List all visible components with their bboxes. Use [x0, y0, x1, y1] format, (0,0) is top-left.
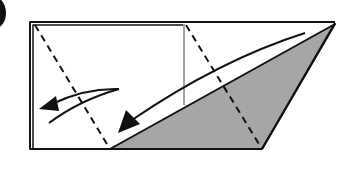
dashed-fold-line-left — [35, 25, 110, 149]
origami-diagram — [0, 0, 351, 172]
arrowhead-icon — [39, 96, 59, 111]
shaded-flap — [110, 24, 335, 149]
fold-arrow-short — [39, 89, 119, 123]
arrowhead-icon — [118, 110, 140, 133]
